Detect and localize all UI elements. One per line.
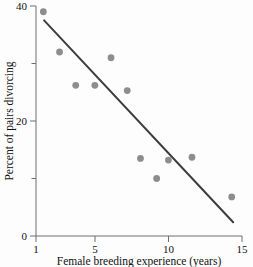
scatter-plot-figure: 40 20 0 1 5 10 15 Female breeding experi… xyxy=(0,0,253,267)
data-point xyxy=(108,54,115,61)
data-point xyxy=(165,157,172,164)
y-axis-title: Percent of pairs divorcing xyxy=(3,61,16,180)
data-point xyxy=(137,155,144,162)
data-point xyxy=(153,175,160,182)
regression-trend-line xyxy=(44,20,233,222)
data-point xyxy=(40,8,47,15)
x-tick-label-1: 1 xyxy=(33,243,39,255)
data-point xyxy=(189,154,196,161)
plot-canvas: 40 20 0 1 5 10 15 Female breeding experi… xyxy=(0,0,253,267)
x-axis-title: Female breeding experience (years) xyxy=(57,255,222,267)
data-point xyxy=(124,87,131,94)
data-point xyxy=(228,194,235,201)
data-point xyxy=(72,82,79,89)
data-point xyxy=(56,49,63,56)
data-point xyxy=(91,82,98,89)
scatter-markers xyxy=(40,8,235,200)
y-tick-label-0: 0 xyxy=(22,230,28,242)
y-tick-label-20: 20 xyxy=(16,115,28,127)
x-tick-label-5: 5 xyxy=(92,243,98,255)
x-tick-label-15: 15 xyxy=(237,243,249,255)
y-tick-label-40: 40 xyxy=(16,0,28,12)
x-tick-label-10: 10 xyxy=(163,243,175,255)
